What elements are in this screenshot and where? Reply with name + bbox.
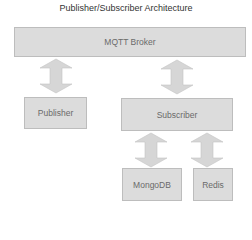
arrow-broker-subscriber-icon [161, 60, 193, 94]
arrow-subscriber-redis-icon [191, 133, 223, 167]
node-label: Subscriber [157, 110, 198, 120]
node-mqtt-broker: MQTT Broker [14, 27, 246, 57]
node-label: Redis [202, 180, 224, 190]
arrow-broker-publisher-icon [40, 59, 72, 93]
arrow-subscriber-mongodb-icon [135, 133, 167, 167]
node-label: MQTT Broker [104, 37, 155, 47]
node-publisher: Publisher [24, 97, 87, 129]
node-label: Publisher [38, 108, 73, 118]
node-label: MongoDB [133, 180, 171, 190]
node-subscriber: Subscriber [121, 98, 233, 131]
node-redis: Redis [193, 168, 233, 201]
node-mongodb: MongoDB [122, 168, 182, 201]
